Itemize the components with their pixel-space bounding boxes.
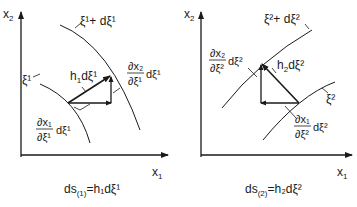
y-axis-label: x2 bbox=[3, 7, 14, 23]
formula-ds2: ds(2)=h₂dξ² bbox=[245, 182, 302, 198]
leader-line bbox=[82, 87, 86, 92]
svg-text:dξ²: dξ² bbox=[228, 55, 243, 67]
hypotenuse-label: h2dξ² bbox=[277, 58, 304, 74]
leader-line bbox=[248, 68, 257, 77]
leader-line bbox=[113, 88, 120, 93]
y-axis-label: x2 bbox=[184, 7, 195, 23]
curve-xi2-label: ξ² bbox=[326, 92, 335, 106]
leader-line bbox=[322, 88, 328, 93]
svg-text:∂x₁: ∂x₁ bbox=[295, 113, 310, 125]
horizontal-component-label: ∂x₁ ∂ξ¹ dξ¹ bbox=[36, 116, 71, 143]
curve-outer-label: ξ¹+ dξ¹ bbox=[80, 14, 116, 28]
svg-text:∂ξ¹: ∂ξ¹ bbox=[128, 75, 142, 87]
right-panel: x2 x1 ξ²+ dξ² ξ² h2dξ² ∂x₂ ∂ξ² dξ² ∂x₁ bbox=[184, 7, 352, 198]
svg-text:∂ξ¹: ∂ξ¹ bbox=[37, 131, 51, 143]
left-panel: x2 x1 ξ¹ ξ¹+ dξ¹ h1dξ¹ ∂x₂ ∂ξ¹ dξ¹ ∂x₁ bbox=[3, 7, 168, 198]
leader-line bbox=[272, 68, 276, 73]
vertical-component-label: ∂x₂ ∂ξ² dξ² bbox=[209, 47, 243, 74]
x-axis-label: x1 bbox=[337, 165, 348, 181]
x-axis-label: x1 bbox=[152, 165, 163, 181]
svg-text:∂x₂: ∂x₂ bbox=[210, 47, 225, 59]
curve-xi1-label: ξ¹ bbox=[22, 73, 31, 87]
hypotenuse-label: h1dξ¹ bbox=[70, 69, 97, 85]
horizontal-component-label: ∂x₁ ∂ξ² dξ² bbox=[294, 113, 328, 140]
leader-line bbox=[33, 74, 40, 77]
svg-text:∂x₁: ∂x₁ bbox=[37, 116, 52, 128]
svg-text:∂ξ²: ∂ξ² bbox=[210, 62, 224, 74]
vertical-component-label: ∂x₂ ∂ξ¹ dξ¹ bbox=[127, 60, 161, 87]
svg-text:∂ξ²: ∂ξ² bbox=[295, 128, 309, 140]
svg-text:dξ¹: dξ¹ bbox=[56, 124, 71, 136]
svg-text:dξ²: dξ² bbox=[313, 121, 328, 133]
formula-ds1: ds(1)=h₁dξ¹ bbox=[64, 182, 120, 198]
svg-text:dξ¹: dξ¹ bbox=[146, 68, 161, 80]
diagram-canvas: x2 x1 ξ¹ ξ¹+ dξ¹ h1dξ¹ ∂x₂ ∂ξ¹ dξ¹ ∂x₁ bbox=[0, 0, 357, 207]
curve-outer-label: ξ²+ dξ² bbox=[264, 12, 300, 26]
svg-text:∂x₂: ∂x₂ bbox=[128, 60, 143, 72]
leader-line bbox=[305, 24, 309, 29]
leader-line bbox=[74, 104, 90, 110]
